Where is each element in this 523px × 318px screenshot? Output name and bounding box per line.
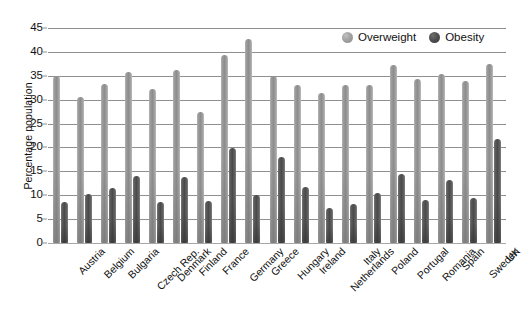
y-tick-label-0: 0 (37, 237, 43, 249)
legend-label-obesity: Obesity (445, 31, 484, 43)
bar-group (486, 28, 501, 243)
bar-overweight (438, 74, 445, 243)
bar-obesity (253, 195, 260, 243)
bar-obesity (398, 174, 405, 243)
bar-overweight (414, 79, 421, 243)
overweight-swatch-icon (342, 32, 353, 43)
bar-obesity (470, 198, 477, 243)
bar-obesity (350, 204, 357, 243)
bar-group (390, 28, 405, 243)
bar-overweight (149, 89, 156, 243)
bar-overweight (125, 72, 132, 243)
bar-overweight (101, 84, 108, 243)
y-tick-label-30: 30 (30, 94, 43, 106)
bar-obesity (494, 139, 501, 243)
bar-overweight (173, 70, 180, 243)
bar-obesity (205, 201, 212, 243)
bar-group (438, 28, 453, 243)
y-tick-label-45: 45 (30, 22, 43, 34)
bar-overweight (390, 65, 397, 243)
bar-obesity (85, 194, 92, 243)
bar-overweight (342, 85, 349, 243)
bar-overweight (462, 81, 469, 243)
bar-obesity (109, 188, 116, 243)
bar-overweight (245, 39, 252, 243)
bar-group (149, 28, 164, 243)
bar-group (270, 28, 285, 243)
bar-obesity (181, 177, 188, 243)
bar-obesity (278, 157, 285, 243)
y-tick-label-5: 5 (37, 213, 43, 225)
legend-item-obesity: Obesity (429, 31, 484, 43)
bar-overweight (270, 76, 277, 243)
bar-group (245, 28, 260, 243)
x-axis-labels: AustriaBelgiumBulgariaCzech Rep.DenmarkF… (48, 245, 506, 315)
y-tick-label-25: 25 (30, 118, 43, 130)
legend-label-overweight: Overweight (358, 31, 416, 43)
bar-group (462, 28, 477, 243)
y-tick-mark-45 (43, 28, 47, 29)
bar-group (77, 28, 92, 243)
bar-overweight (77, 97, 84, 243)
y-tick-mark-0 (43, 243, 47, 244)
y-tick-label-35: 35 (30, 70, 43, 82)
bar-group (53, 28, 68, 243)
y-tick-mark-5 (43, 219, 47, 220)
plot-area: 051015202530354045 (48, 28, 506, 243)
y-tick-label-40: 40 (30, 46, 43, 58)
y-tick-mark-40 (43, 51, 47, 52)
bars-layer (48, 28, 506, 243)
obesity-swatch-icon (429, 32, 440, 43)
y-tick-label-20: 20 (30, 142, 43, 154)
bar-overweight (221, 55, 228, 243)
bar-obesity (446, 180, 453, 243)
y-tick-mark-25 (43, 123, 47, 124)
bar-group (342, 28, 357, 243)
bar-group (366, 28, 381, 243)
bar-group (221, 28, 236, 243)
bar-group (294, 28, 309, 243)
bar-obesity (374, 193, 381, 243)
bar-overweight (53, 76, 60, 243)
bar-group (125, 28, 140, 243)
chart-legend: Overweight Obesity (336, 28, 490, 46)
bar-obesity (133, 176, 140, 243)
bar-overweight (294, 85, 301, 243)
bar-obesity (302, 187, 309, 243)
bar-obesity (422, 200, 429, 243)
legend-item-overweight: Overweight (342, 31, 416, 43)
bar-group (414, 28, 429, 243)
y-tick-label-15: 15 (30, 166, 43, 178)
y-tick-mark-15 (43, 171, 47, 172)
bar-overweight (197, 112, 204, 243)
bar-group (197, 28, 212, 243)
bar-group (318, 28, 333, 243)
bar-overweight (486, 64, 493, 243)
y-tick-mark-20 (43, 147, 47, 148)
bar-overweight (366, 85, 373, 243)
y-tick-mark-10 (43, 195, 47, 196)
bar-obesity (61, 202, 68, 243)
y-tick-mark-30 (43, 99, 47, 100)
y-tick-mark-35 (43, 75, 47, 76)
bar-obesity (229, 148, 236, 243)
bar-group (173, 28, 188, 243)
bar-group (101, 28, 116, 243)
y-tick-label-10: 10 (30, 189, 43, 201)
bar-obesity (157, 202, 164, 243)
bar-overweight (318, 93, 325, 243)
bar-obesity (326, 208, 333, 243)
